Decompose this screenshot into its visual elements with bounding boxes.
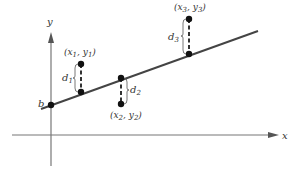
brace-3-icon bbox=[181, 19, 186, 54]
x-axis: x bbox=[12, 130, 288, 141]
y-axis-label: y bbox=[46, 16, 53, 27]
intercept-point bbox=[48, 102, 54, 108]
brace-1-icon bbox=[73, 64, 78, 92]
distance-label-3: d3 bbox=[168, 31, 179, 44]
point-label-2: (x2, y2) bbox=[110, 110, 142, 122]
x-axis-label: x bbox=[282, 130, 288, 141]
predicted-point-3 bbox=[186, 51, 192, 57]
data-point-3: d3 (x3, y3) bbox=[168, 2, 206, 57]
predicted-point-2 bbox=[118, 75, 124, 81]
predicted-point-1 bbox=[78, 89, 84, 95]
observed-point-3 bbox=[186, 16, 192, 22]
regression-diagram: x y b d1 (x1, y1) d2 (x2, y2) d3 (x3 bbox=[0, 0, 294, 174]
point-label-1: (x1, y1) bbox=[64, 47, 96, 59]
point-label-3: (x3, y3) bbox=[174, 2, 206, 14]
intercept-label: b bbox=[38, 98, 44, 109]
distance-label-1: d1 bbox=[62, 72, 73, 85]
regression-line bbox=[41, 31, 258, 109]
brace-2-icon bbox=[124, 78, 129, 104]
observed-point-2 bbox=[118, 101, 124, 107]
distance-label-2: d2 bbox=[130, 84, 141, 97]
x-axis-arrow-icon bbox=[268, 132, 279, 138]
data-point-1: d1 (x1, y1) bbox=[62, 47, 96, 95]
y-axis-arrow-icon bbox=[48, 32, 54, 43]
observed-point-1 bbox=[78, 61, 84, 67]
y-axis: y bbox=[46, 16, 54, 166]
